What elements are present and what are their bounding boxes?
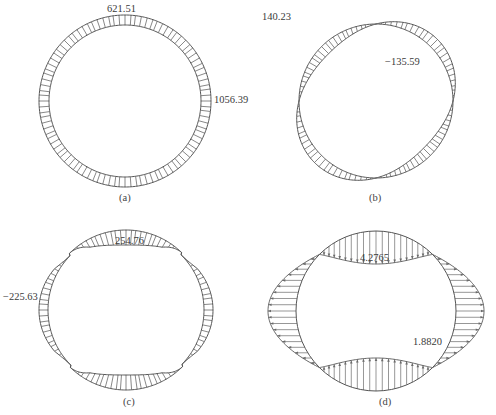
panel-c-left-value-label: −225.63 (3, 292, 38, 303)
panel-a-top-value-label: 621.51 (107, 4, 136, 15)
panel-b-antisymmetric-diagram (297, 22, 456, 181)
panel-d-bottom-value-label: 1.8820 (413, 337, 442, 348)
panel-d-caption: (d) (379, 397, 391, 408)
figure-canvas (0, 0, 496, 415)
panel-b-caption: (b) (369, 193, 381, 204)
panel-a-caption: (a) (119, 193, 131, 204)
panel-b-min-value-label: −135.59 (385, 57, 420, 68)
panel-b-max-value-label: 140.23 (262, 12, 291, 23)
panel-a-right-value-label: 1056.39 (214, 95, 248, 106)
panel-d-top-value-label: 4.2765 (360, 253, 389, 264)
panel-c-top-value-label: 254.76 (115, 236, 144, 247)
panel-a-ring-diagram (39, 15, 211, 187)
panel-c-caption: (c) (123, 397, 135, 408)
panel-c-symmetric-diagram (39, 230, 213, 390)
